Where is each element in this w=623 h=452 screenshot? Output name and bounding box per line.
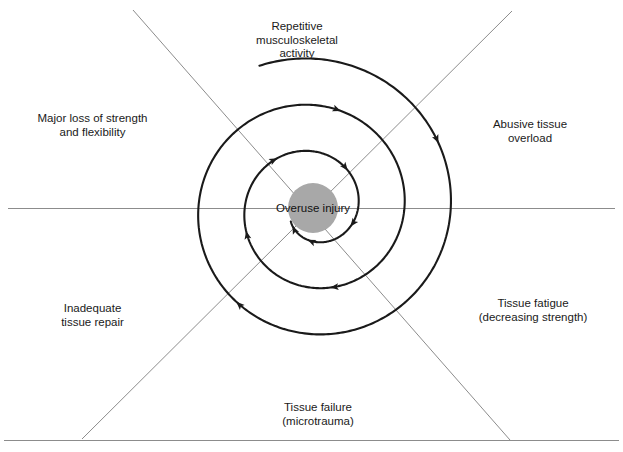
stage-line: (microtrauma) [258, 415, 378, 429]
center-label-overuse-injury: Overuse injury [258, 202, 368, 215]
stage-label-abusive-tissue-overload: Abusive tissue overload [470, 118, 590, 145]
stage-label-repetitive-activity: Repetitive musculoskeletal activity [237, 20, 357, 61]
stage-line: (decreasing strength) [458, 311, 608, 325]
spiral-arrowhead-1 [432, 134, 442, 144]
stage-line: overload [470, 132, 590, 146]
stage-line: Major loss of strength [20, 112, 165, 126]
stage-line: Abusive tissue [470, 118, 590, 132]
stage-line: Repetitive [237, 20, 357, 34]
stage-label-major-loss-of-strength: Major loss of strength and flexibility [20, 112, 165, 139]
stage-line: activity [237, 47, 357, 61]
stage-line: and flexibility [20, 126, 165, 140]
diagram-canvas: Overuse injury Repetitive musculoskeleta… [0, 0, 623, 452]
spiral-path [198, 58, 451, 334]
stage-line: Tissue fatigue [458, 297, 608, 311]
stage-label-tissue-failure: Tissue failure (microtrauma) [258, 401, 378, 428]
stage-label-inadequate-tissue-repair: Inadequate tissue repair [35, 302, 150, 329]
stage-line: musculoskeletal [237, 34, 357, 48]
stage-label-tissue-fatigue: Tissue fatigue (decreasing strength) [458, 297, 608, 324]
spiral-layer [0, 0, 623, 452]
stage-line: tissue repair [35, 316, 150, 330]
stage-line: Inadequate [35, 302, 150, 316]
overuse-injury-spiral [198, 58, 451, 334]
stage-line: Tissue failure [258, 401, 378, 415]
